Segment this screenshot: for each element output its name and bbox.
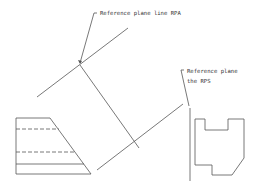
leader-rpa [80,13,97,63]
label-rps-line2: the RPS [187,78,211,84]
label-rps-line1: Reference plane [187,68,238,75]
side-view-shape [195,119,244,175]
label-rpa: Reference plane line RPA [100,10,181,17]
projection-line [80,65,139,148]
lower-inclined-line [97,104,183,170]
front-view-trapezoid [16,118,91,174]
reference-plane-line-rpa [37,28,128,97]
drawing-canvas: Reference plane line RPA Reference plane… [0,0,256,193]
leader-rps [181,70,189,106]
